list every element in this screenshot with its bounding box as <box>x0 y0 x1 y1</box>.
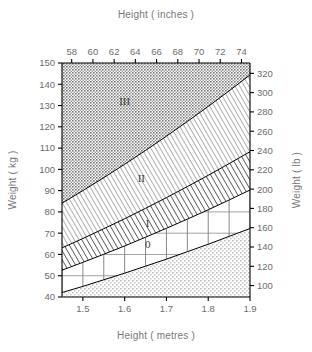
tick-label: 1.8 <box>202 303 215 314</box>
tick-label: 1.5 <box>76 303 89 314</box>
bottom-axis-title: Height ( metres ) <box>117 330 195 341</box>
tick-label: 120 <box>39 121 55 132</box>
tick-label: 110 <box>40 142 55 153</box>
tick-label: 100 <box>39 164 55 175</box>
tick-label: 1.6 <box>118 303 131 314</box>
region-label-grade-3: III <box>119 95 130 107</box>
tick-label: 140 <box>39 79 55 90</box>
tick-label: 72 <box>215 46 226 57</box>
tick-label: 160 <box>257 222 273 233</box>
tick-label: 1.7 <box>160 303 173 314</box>
tick-label: 140 <box>257 241 273 252</box>
tick-label: 240 <box>257 145 273 156</box>
right-axis-title: Weight ( lb ) <box>291 152 302 208</box>
region-label-grade-0: 0 <box>145 238 151 250</box>
top-axis-title: Height ( inches ) <box>118 9 194 20</box>
tick-label: 70 <box>44 228 55 239</box>
tick-label: 130 <box>39 100 55 111</box>
tick-label: 62 <box>109 46 120 57</box>
tick-label: 40 <box>44 291 55 302</box>
regions-group <box>62 63 250 297</box>
tick-label: 300 <box>257 87 273 98</box>
tick-label: 220 <box>257 164 273 175</box>
tick-label: 280 <box>257 106 273 117</box>
tick-label: 60 <box>44 249 55 260</box>
region-label-grade-1: I <box>146 217 150 229</box>
tick-label: 68 <box>173 46 184 57</box>
tick-label: 120 <box>257 261 273 272</box>
tick-label: 60 <box>88 46 99 57</box>
tick-label: 100 <box>257 280 273 291</box>
bmi-chart: 4050607080901001101201301401501001201401… <box>0 0 312 352</box>
tick-label: 64 <box>130 46 141 57</box>
tick-label: 74 <box>236 46 247 57</box>
tick-label: 320 <box>257 68 273 79</box>
tick-label: 50 <box>44 270 55 281</box>
tick-label: 260 <box>257 126 273 137</box>
tick-label: 1.9 <box>243 303 256 314</box>
tick-label: 70 <box>194 46 205 57</box>
left-axis-title: Weight ( kg ) <box>7 150 18 209</box>
tick-label: 90 <box>44 185 55 196</box>
tick-label: 180 <box>257 203 273 214</box>
tick-label: 66 <box>151 46 162 57</box>
region-label-grade-2: II <box>138 172 146 184</box>
chart-canvas: 4050607080901001101201301401501001201401… <box>0 0 312 352</box>
tick-label: 150 <box>39 57 55 68</box>
tick-label: 80 <box>44 206 55 217</box>
tick-label: 58 <box>66 46 77 57</box>
tick-label: 200 <box>257 184 273 195</box>
